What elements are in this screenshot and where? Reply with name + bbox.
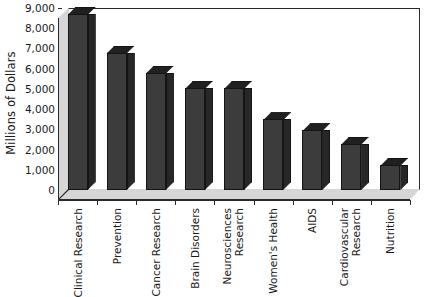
y-tick-label: 4,000 xyxy=(25,104,55,114)
x-tick-mark xyxy=(410,200,411,205)
y-tick-label: 7,000 xyxy=(25,43,55,53)
bar-side-face xyxy=(166,73,174,190)
x-tick-mark xyxy=(58,200,59,205)
x-category-label-line: Neurosciences xyxy=(222,208,234,284)
bar xyxy=(302,130,322,190)
bar-front-face xyxy=(302,130,322,190)
bar-front-face xyxy=(146,73,166,190)
x-category-label-line: Women's Health xyxy=(268,208,280,294)
y-axis-ticks: 9,0008,0007,0006,0005,0004,0003,0002,000… xyxy=(20,0,58,205)
x-tick-mark xyxy=(332,200,333,205)
y-tick-label: 8,000 xyxy=(25,23,55,33)
bar-side-face xyxy=(205,88,213,190)
x-tick-mark xyxy=(136,200,137,205)
y-tick-label: 9,000 xyxy=(25,3,55,13)
x-category-label-line: Clinical Research xyxy=(73,208,85,297)
x-category-label-line: Prevention xyxy=(112,208,124,264)
x-category-label-lines: Women's Health xyxy=(268,208,280,294)
x-category-label-lines: Brain Disorders xyxy=(190,208,202,289)
x-category-label-lines: Nutrition xyxy=(385,208,397,254)
x-category-label-line: Research xyxy=(234,208,246,256)
bar-side-face xyxy=(361,144,369,191)
bar-front-face xyxy=(68,14,88,190)
y-tick-label: 6,000 xyxy=(25,64,55,74)
y-tick-label: 0 xyxy=(48,185,55,195)
x-category-label-line: AIDS xyxy=(307,208,319,233)
bar-side-face xyxy=(127,53,135,191)
bar xyxy=(341,144,361,191)
bar-front-face xyxy=(107,53,127,191)
x-category-label-lines: Cancer Research xyxy=(151,208,163,296)
x-tick-mark xyxy=(97,200,98,205)
bar-side-face xyxy=(400,165,408,190)
x-axis xyxy=(58,200,420,208)
x-category-label-line: Nutrition xyxy=(385,208,397,254)
x-category-label-lines: Clinical Research xyxy=(73,208,85,297)
bar-side-face xyxy=(244,88,252,190)
bar-front-face xyxy=(380,165,400,190)
y-tick-label: 1,000 xyxy=(25,165,55,175)
bars-layer xyxy=(58,8,420,200)
bar-front-face xyxy=(224,88,244,190)
y-axis-title: Millions of Dollars xyxy=(0,0,22,205)
y-tick-label: 2,000 xyxy=(25,145,55,155)
bar-side-face xyxy=(283,119,291,190)
x-category-label-lines: NeurosciencesResearch xyxy=(222,208,245,284)
bar-front-face xyxy=(185,88,205,190)
x-tick-mark xyxy=(254,200,255,205)
x-category-label: Nutrition xyxy=(385,208,426,294)
y-tick-label: 3,000 xyxy=(25,124,55,134)
bar-side-face xyxy=(322,130,330,190)
x-tick-mark xyxy=(175,200,176,205)
x-tick-mark xyxy=(214,200,215,205)
x-category-label-line: Brain Disorders xyxy=(190,208,202,289)
x-tick-mark xyxy=(371,200,372,205)
bar xyxy=(146,73,166,190)
x-category-label-lines: Prevention xyxy=(112,208,124,264)
y-tick-label: 5,000 xyxy=(25,84,55,94)
x-category-label-lines: AIDS xyxy=(307,208,319,233)
x-category-label-lines: CardiovascularResearch xyxy=(339,208,362,286)
bar xyxy=(380,165,400,190)
bar-front-face xyxy=(263,119,283,190)
x-category-label-line: Cancer Research xyxy=(151,208,163,296)
y-axis-title-text: Millions of Dollars xyxy=(4,51,18,154)
bar xyxy=(263,119,283,190)
bar xyxy=(185,88,205,190)
bar-side-face xyxy=(88,14,96,190)
x-axis-labels: Clinical ResearchPreventionCancer Resear… xyxy=(58,208,426,294)
x-category-label-line: Research xyxy=(351,208,363,256)
bar xyxy=(68,14,88,190)
x-tick-mark xyxy=(293,200,294,205)
bar xyxy=(107,53,127,191)
bar-front-face xyxy=(341,144,361,191)
x-axis-line xyxy=(58,200,410,201)
bar xyxy=(224,88,244,190)
